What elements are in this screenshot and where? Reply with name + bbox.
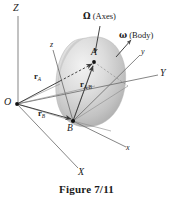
figure-container: Z Y X z y x O A B rA rB rA/B Ω (Axes) ω … xyxy=(0,0,173,204)
label-vector-rB: rB xyxy=(38,109,45,118)
omega-lower-icon: ω xyxy=(119,30,127,40)
label-vector-rB-subscript: B xyxy=(42,113,45,119)
label-vector-rA: rA xyxy=(34,72,41,81)
node-A xyxy=(92,60,96,64)
label-omega-axes-note: (Axes) xyxy=(93,11,116,21)
axis-label-y: y xyxy=(141,48,145,56)
label-omega-body: ω (Body) xyxy=(119,31,153,40)
label-vector-rA-subscript: A xyxy=(38,76,41,82)
figure-caption: Figure 7/11 xyxy=(0,183,173,195)
label-point-A: A xyxy=(91,48,97,58)
label-point-B: B xyxy=(67,124,73,134)
label-omega-body-note: (Body) xyxy=(129,30,153,40)
axis-label-x: x xyxy=(126,144,130,152)
axis-line-x xyxy=(73,121,126,147)
axis-label-Y: Y xyxy=(160,68,166,78)
vector-omega-body-arrow xyxy=(116,40,131,57)
axis-label-z: z xyxy=(50,41,53,49)
label-vector-rAB: rA/B xyxy=(80,80,92,89)
label-vector-rAB-subscript: A/B xyxy=(84,84,92,90)
node-O xyxy=(15,102,19,106)
label-omega-axes: Ω (Axes) xyxy=(83,12,116,21)
label-origin-O: O xyxy=(4,97,11,107)
axis-label-Z: Z xyxy=(13,3,19,13)
axis-label-X: X xyxy=(78,167,84,177)
omega-capital-icon: Ω xyxy=(83,11,91,21)
